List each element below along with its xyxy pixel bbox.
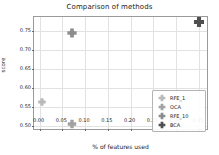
legend-label: BCA — [169, 122, 180, 128]
x-tick-label: 0.10 — [79, 117, 90, 123]
y-axis-tick — [32, 31, 34, 32]
chart-title: Comparison of methods — [0, 3, 219, 11]
y-tick-label: 0.50 — [20, 122, 32, 128]
x-axis-tick — [108, 129, 109, 131]
gridline-vertical — [40, 17, 41, 129]
x-axis-tick — [85, 129, 86, 131]
legend-label: OCA — [169, 104, 181, 110]
y-axis-tick — [32, 50, 34, 51]
x-tick-label: 0.15 — [101, 117, 112, 123]
data-point-rfe_10 — [66, 28, 77, 39]
gridline-horizontal — [34, 69, 207, 70]
x-axis-tick — [131, 129, 132, 131]
chart-legend: RFE_1OCARFE_10BCA — [152, 90, 206, 132]
gridline-vertical — [62, 17, 63, 129]
gridline-vertical — [85, 17, 86, 129]
gridline-vertical — [108, 17, 109, 129]
legend-marker-icon — [155, 103, 169, 111]
y-axis-tick — [32, 126, 34, 127]
y-tick-label: 0.65 — [20, 65, 32, 71]
data-point-rfe_1 — [37, 98, 46, 107]
y-axis-tick — [32, 88, 34, 89]
y-tick-label: 0.60 — [20, 84, 32, 90]
y-tick-label: 0.70 — [20, 46, 32, 52]
y-axis-tick — [32, 69, 34, 70]
x-axis-tick — [40, 129, 41, 131]
legend-marker-icon — [155, 121, 169, 129]
y-tick-label: 0.75 — [20, 27, 32, 33]
legend-marker-icon — [155, 94, 169, 102]
gridline-horizontal — [34, 31, 207, 32]
legend-label: RFE_1 — [169, 95, 185, 101]
x-axis-tick — [62, 129, 63, 131]
chart-figure: Comparison of methods score % of feature… — [0, 0, 219, 155]
legend-item-bca[interactable]: BCA — [155, 120, 202, 129]
y-tick-label: 0.55 — [20, 103, 32, 109]
gridline-horizontal — [34, 50, 207, 51]
x-tick-label: 0.05 — [56, 117, 67, 123]
legend-item-oca[interactable]: OCA — [155, 102, 202, 111]
y-axis-label: score — [0, 58, 6, 73]
y-axis-tick — [32, 107, 34, 108]
x-tick-label: 0.20 — [124, 117, 135, 123]
legend-item-rfe_10[interactable]: RFE_10 — [155, 111, 202, 120]
data-point-bca — [193, 16, 205, 28]
legend-label: RFE_10 — [169, 113, 188, 119]
gridline-vertical — [131, 17, 132, 129]
x-tick-label: 0.00 — [33, 117, 44, 123]
data-point-oca — [67, 119, 77, 129]
x-axis-label: % of features used — [33, 143, 208, 150]
legend-marker-icon — [155, 112, 169, 120]
legend-item-rfe_1[interactable]: RFE_1 — [155, 93, 202, 102]
